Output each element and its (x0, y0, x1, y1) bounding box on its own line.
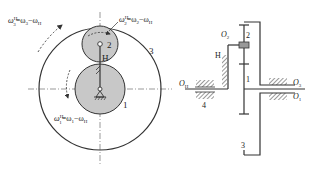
carrier-label-H: H (102, 53, 109, 63)
frame-bearing-bottom-right (269, 93, 287, 100)
planet-pivot (98, 42, 103, 47)
frame-bearing-bottom-left (196, 92, 214, 99)
ring-gear-3-side (244, 22, 295, 85)
label-O2: O2 (221, 30, 230, 40)
equation-planet: ωH2=ω2−ωH (119, 15, 153, 26)
sun-rotation-arrow (66, 70, 70, 98)
equation-sun: ωH1=ω1−ωH (54, 114, 88, 125)
planet-bearing (239, 42, 249, 48)
planetary-gear-diagram: 2 H 3 1 ωH3=ω3−ωH ωH2=ω2−ωH ωH1=ω1−ωH (0, 0, 315, 174)
carrier-hatch (222, 55, 227, 87)
ring-label-3: 3 (149, 46, 154, 56)
side-view: O2 2 H 1 OH O3 O1 4 3 (179, 22, 305, 155)
label-frame-4: 4 (202, 101, 206, 110)
label-OH: OH (179, 79, 189, 89)
front-view: 2 H 3 1 ωH3=ω3−ωH ωH2=ω2−ωH ωH1=ω1−ωH (8, 12, 172, 166)
label-O1: O1 (293, 92, 302, 102)
equation-ring: ωH3=ω3−ωH (8, 16, 42, 27)
frame-bearing-top-right (269, 78, 287, 85)
label-carrier-H: H (215, 51, 221, 60)
label-sun-1: 1 (246, 75, 250, 84)
label-ring-3: 3 (241, 141, 245, 150)
label-O3: O3 (293, 78, 302, 88)
sun-label-1: 1 (123, 100, 128, 110)
frame-bearing-top-left (196, 80, 214, 87)
ring-rotation-arrow (38, 25, 62, 52)
ring-gear-3-lower (244, 93, 295, 155)
label-planet-2: 2 (246, 31, 250, 40)
planet-label-2: 2 (107, 40, 112, 50)
